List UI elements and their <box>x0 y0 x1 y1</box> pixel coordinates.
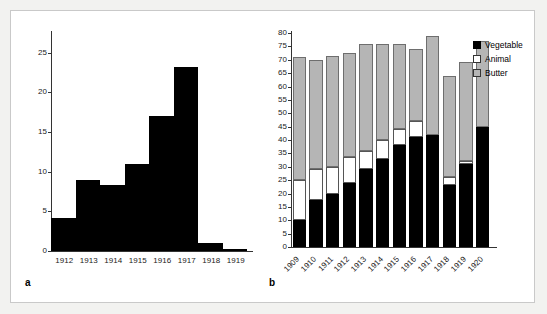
panel-b-y-tick <box>288 60 291 61</box>
panel-a-bar <box>125 164 150 251</box>
panel-b-y-tick-label: 45 <box>269 123 287 131</box>
panel-b-segment-animal <box>393 129 407 145</box>
panel-b-segment-animal <box>293 180 307 220</box>
panel-a-y-tick-label: 25 <box>27 49 47 57</box>
animal-swatch-icon <box>473 55 481 63</box>
panel-b-segment-butter <box>426 36 440 135</box>
panel-b-segment-animal <box>376 140 390 159</box>
panel-b-segment-butter <box>459 62 473 161</box>
legend: Vegetable Animal Butter <box>473 39 523 81</box>
panel-b-segment-animal <box>309 169 323 200</box>
panel-b-y-tick <box>288 207 291 208</box>
panel-b-y-tick-label: 5 <box>269 230 287 238</box>
panel-b-segment-animal <box>343 157 357 182</box>
panel-b-segment-animal <box>443 177 457 185</box>
panel-b-segment-vegetable <box>293 220 307 247</box>
panel-b-segment-butter <box>443 76 457 178</box>
panel-a-x-tick-label: 1917 <box>175 257 199 265</box>
panel-b-y-tick <box>288 167 291 168</box>
panel-a-y-tick <box>48 132 51 133</box>
panel-b-y-tick-label: 25 <box>269 176 287 184</box>
panel-a-bar <box>100 185 125 251</box>
panel-b-y-tick-label: 60 <box>269 83 287 91</box>
panel-b-y-tick <box>288 153 291 154</box>
panel-b-segment-vegetable <box>376 159 390 247</box>
panel-b-segment-vegetable <box>393 145 407 247</box>
panel-a-x-tick-label: 1918 <box>199 257 223 265</box>
panel-b-segment-vegetable <box>326 194 340 248</box>
legend-item-vegetable: Vegetable <box>473 39 523 51</box>
panel-a-x-tick-label: 1912 <box>52 257 76 265</box>
butter-swatch-icon <box>473 69 481 77</box>
panel-b-segment-vegetable <box>309 200 323 247</box>
panel-b-y-tick-label: 10 <box>269 216 287 224</box>
panel-a-y-tick-label: 20 <box>27 88 47 96</box>
panel-b-y-tick-label: 0 <box>269 243 287 251</box>
panel-b-letter: b <box>269 277 275 288</box>
panel-a-y-tick-label: 0 <box>27 247 47 255</box>
panel-a-y-tick-label: 15 <box>27 128 47 136</box>
panel-a-bar <box>198 243 223 251</box>
panel-b-segment-butter <box>393 44 407 130</box>
panel-b-y-tick <box>288 113 291 114</box>
panel-b-y-tick <box>288 180 291 181</box>
panel-a-y-tick <box>48 172 51 173</box>
panel-b-segment-butter <box>343 53 357 157</box>
panel-b-y-tick-label: 70 <box>269 56 287 64</box>
legend-label-animal: Animal <box>485 55 511 64</box>
panel-a-x-tick-label: 1914 <box>101 257 125 265</box>
panel-b-y-tick <box>288 234 291 235</box>
panel-a-y-tick <box>48 92 51 93</box>
panel-a-bar <box>76 180 101 251</box>
panel-b-y-tick-label: 35 <box>269 149 287 157</box>
panel-a-x-tick-label: 1919 <box>224 257 248 265</box>
panel-b-segment-butter <box>326 56 340 167</box>
panel-a-x-tick-label: 1913 <box>77 257 101 265</box>
panel-b-segment-animal <box>409 121 423 137</box>
panel-b-y-tick <box>288 87 291 88</box>
vegetable-swatch-icon <box>473 41 481 49</box>
panel-b-y-tick-label: 40 <box>269 136 287 144</box>
panel-b-y-tick <box>288 46 291 47</box>
panel-b-y-tick <box>288 220 291 221</box>
panel-a-x-axis-line <box>51 251 253 252</box>
panel-a-letter: a <box>25 277 31 288</box>
panel-b-segment-vegetable <box>476 127 490 247</box>
panel-b-segment-vegetable <box>343 183 357 247</box>
panel-b-segment-butter <box>293 57 307 180</box>
figure-root: 0510152025 19121913191419151916191719181… <box>0 0 547 314</box>
legend-item-animal: Animal <box>473 53 523 65</box>
panel-b-segment-animal <box>326 167 340 194</box>
panel-a-x-tick-label: 1915 <box>126 257 150 265</box>
panel-b-segment-butter <box>359 44 373 151</box>
panel-a-bar <box>51 218 76 251</box>
legend-item-butter: Butter <box>473 67 523 79</box>
panel-b-segment-butter <box>309 60 323 170</box>
panel-b-y-tick <box>288 140 291 141</box>
figure-frame: 0510152025 19121913191419151916191719181… <box>10 10 535 303</box>
panel-b-y-tick-label: 65 <box>269 69 287 77</box>
panel-b-y-tick-label: 15 <box>269 203 287 211</box>
panel-b-y-tick-label: 50 <box>269 109 287 117</box>
panel-b-y-tick-label: 20 <box>269 190 287 198</box>
panel-a-y-tick-label: 10 <box>27 168 47 176</box>
panel-b-segment-vegetable <box>459 164 473 247</box>
panel-b-segment-vegetable <box>359 169 373 247</box>
legend-label-butter: Butter <box>485 69 508 78</box>
panel-a-y-tick <box>48 211 51 212</box>
panel-b-segment-vegetable <box>409 137 423 247</box>
panel-b-segment-butter <box>376 44 390 140</box>
panel-b-segment-animal <box>459 161 473 164</box>
panel-b-segment-vegetable <box>443 185 457 247</box>
panel-a-y-tick-label: 5 <box>27 207 47 215</box>
panel-b-y-tick-label: 30 <box>269 163 287 171</box>
panel-b-segment-butter <box>409 49 423 121</box>
panel-b-y-tick <box>288 127 291 128</box>
panel-a-x-tick-label: 1916 <box>150 257 174 265</box>
panel-b-y-tick <box>288 100 291 101</box>
panel-a: 0510152025 19121913191419151916191719181… <box>25 29 255 291</box>
panel-a-bar <box>174 67 199 251</box>
panel-b-y-tick-label: 80 <box>269 29 287 37</box>
panel-b-segment-vegetable <box>426 135 440 247</box>
panel-b-y-tick <box>288 33 291 34</box>
